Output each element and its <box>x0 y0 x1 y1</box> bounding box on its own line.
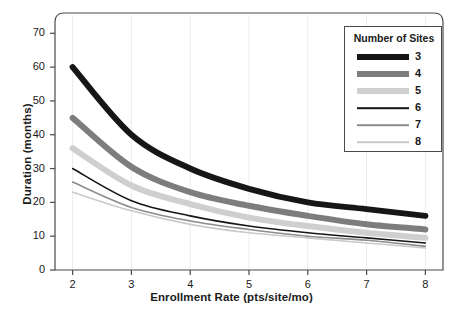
legend-entry-label: 8 <box>415 135 421 147</box>
legend-entry: 3 <box>345 49 443 65</box>
legend-entry-label: 7 <box>415 118 421 130</box>
legend-line-swatch <box>357 124 409 126</box>
x-tick-label: 2 <box>63 278 83 290</box>
legend-entry-label: 6 <box>415 101 421 113</box>
legend-swatch-holder <box>357 100 409 116</box>
y-tick-label: 0 <box>19 263 45 275</box>
legend-swatch-holder <box>357 49 409 65</box>
x-tick-label: 5 <box>239 278 259 290</box>
y-tick-label: 40 <box>19 128 45 140</box>
legend-swatch-holder <box>357 83 409 99</box>
y-tick-label: 60 <box>19 60 45 72</box>
legend-entry: 6 <box>345 100 443 116</box>
legend: Number of Sites 345678 <box>344 26 442 152</box>
legend-entry: 8 <box>345 134 443 150</box>
legend-line-swatch <box>357 88 409 94</box>
legend-swatch-holder <box>357 117 409 133</box>
y-tick-label: 70 <box>19 26 45 38</box>
y-tick-label: 10 <box>19 229 45 241</box>
legend-entry-label: 5 <box>415 84 421 96</box>
legend-swatch-holder <box>357 66 409 82</box>
legend-line-swatch <box>357 141 409 143</box>
chart-figure: Duration (months) Enrollment Rate (pts/s… <box>0 0 463 312</box>
legend-line-swatch <box>357 54 409 60</box>
legend-title: Number of Sites <box>345 32 443 44</box>
legend-entry-label: 3 <box>415 50 421 62</box>
y-tick-label: 50 <box>19 94 45 106</box>
x-axis-title: Enrollment Rate (pts/site/mo) <box>0 291 463 303</box>
x-tick-label: 8 <box>415 278 435 290</box>
legend-line-swatch <box>357 71 409 77</box>
legend-line-swatch <box>357 107 409 109</box>
x-tick-label: 4 <box>180 278 200 290</box>
legend-entry: 4 <box>345 66 443 82</box>
y-tick-label: 20 <box>19 195 45 207</box>
x-tick-label: 6 <box>298 278 318 290</box>
y-tick-label: 30 <box>19 162 45 174</box>
legend-entry: 5 <box>345 83 443 99</box>
legend-swatch-holder <box>357 134 409 150</box>
legend-entry-label: 4 <box>415 67 421 79</box>
x-tick-label: 3 <box>121 278 141 290</box>
x-tick-label: 7 <box>357 278 377 290</box>
legend-entry: 7 <box>345 117 443 133</box>
